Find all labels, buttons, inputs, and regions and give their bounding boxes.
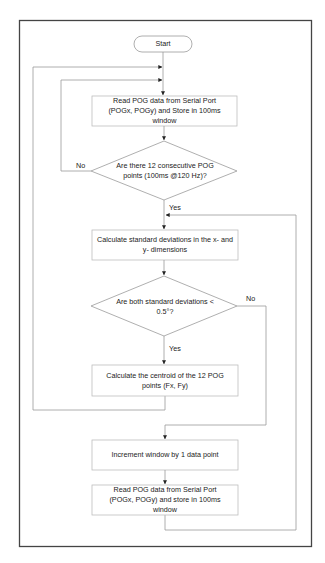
read-box-1-label: Read POG data from Serial Port (POGx, PO… — [92, 96, 237, 126]
decision-checksd-label: Are both standard deviations < 0.5°? — [106, 292, 224, 322]
edge-label-checksd-no: No — [246, 294, 255, 303]
increment-box-label: Increment window by 1 data point — [92, 440, 238, 470]
read-box-2-label: Read POG data from Serial Port (POGx, PO… — [92, 485, 238, 515]
flowchart: No Yes No Yes — [0, 0, 325, 563]
edge-label-check12-yes: Yes — [169, 203, 181, 212]
edge-label-checksd-yes: Yes — [169, 344, 181, 353]
decision-check12-label: Are there 12 consecutive POG points (100… — [104, 156, 226, 186]
start-label: Start — [134, 36, 192, 52]
centroid-box-label: Calculate the centroid of the 12 POG poi… — [92, 365, 238, 396]
edge-label-check12-no: No — [76, 161, 85, 170]
calc-sd-box-label: Calculate standard deviations in the x- … — [92, 230, 238, 260]
